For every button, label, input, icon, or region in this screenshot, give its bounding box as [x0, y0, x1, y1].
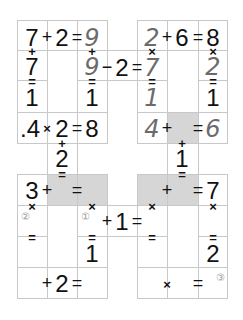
- operator: =: [72, 28, 83, 46]
- operator: =: [148, 231, 156, 244]
- marker-1: ①: [81, 212, 90, 222]
- operator: ×: [209, 200, 217, 213]
- digit: 2: [55, 26, 68, 50]
- handwritten-digit: 1: [144, 86, 159, 110]
- marker-3: ③: [216, 273, 225, 283]
- operator: +: [102, 212, 113, 230]
- operator: =: [178, 168, 186, 181]
- digit: 1: [206, 86, 219, 110]
- operator: +: [162, 119, 173, 137]
- operator: =: [72, 274, 83, 292]
- operator: =: [193, 181, 204, 199]
- operator: =: [193, 28, 204, 46]
- operator: =: [132, 58, 143, 76]
- cell[interactable]: [47, 50, 78, 113]
- handwritten-digit: 6: [205, 117, 220, 141]
- digit: .4: [20, 117, 40, 141]
- digit: 2: [206, 242, 219, 266]
- operator: =: [72, 181, 83, 199]
- cell[interactable]: [167, 205, 199, 268]
- operator: +: [42, 181, 53, 199]
- operator: =: [28, 231, 36, 244]
- handwritten-digit: 4: [144, 117, 159, 141]
- operator: +: [42, 28, 53, 46]
- operator: +: [162, 181, 173, 199]
- digit: 8: [85, 117, 98, 141]
- operator: =: [193, 119, 204, 137]
- operator: =: [193, 274, 204, 292]
- digit: 1: [25, 86, 38, 110]
- operator: ×: [43, 122, 51, 135]
- operator: =: [72, 119, 83, 137]
- operator: =: [58, 168, 66, 181]
- digit: 6: [175, 26, 188, 50]
- operator: =: [132, 212, 143, 230]
- operator: −: [102, 58, 113, 76]
- operator: ×: [163, 278, 171, 291]
- operator: +: [42, 274, 53, 292]
- operator: +: [162, 28, 173, 46]
- digit: 1: [85, 86, 98, 110]
- digit: 1: [115, 210, 128, 234]
- digit: 2: [115, 56, 128, 80]
- cell[interactable]: [167, 50, 199, 113]
- digit: 1: [85, 242, 98, 266]
- marker-2: ②: [21, 212, 30, 222]
- digit: 2: [55, 272, 68, 296]
- operator: ×: [148, 200, 156, 213]
- cell[interactable]: [47, 205, 78, 268]
